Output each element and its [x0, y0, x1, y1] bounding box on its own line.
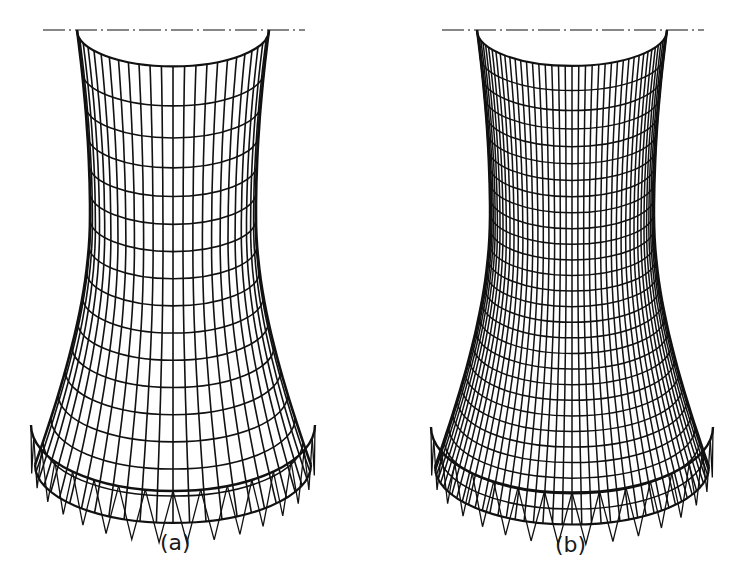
meridian-line — [109, 62, 134, 516]
meridian-line — [562, 66, 566, 525]
panel-label-b: (b) — [555, 532, 586, 557]
meridian-line — [654, 33, 709, 472]
support-column — [626, 481, 650, 536]
support-column — [494, 481, 518, 535]
tower-mesh-fine — [431, 30, 713, 544]
support-column — [518, 488, 544, 541]
meridian-line — [156, 66, 163, 523]
support-column — [600, 488, 626, 542]
meridian-line — [212, 62, 238, 516]
meridian-line — [524, 64, 543, 521]
meridian-line — [578, 66, 582, 525]
cooling-tower-figure — [0, 0, 737, 585]
meridian-line — [247, 47, 296, 492]
panel-label-a: (a) — [160, 530, 191, 555]
meridian-line — [601, 64, 620, 521]
meridian-line — [35, 30, 90, 465]
meridian-line — [51, 47, 100, 492]
tower-mesh-coarse — [31, 30, 315, 543]
ring-line — [77, 30, 269, 66]
meridian-line — [183, 66, 190, 523]
meridian-line — [256, 30, 311, 465]
meridian-line — [435, 33, 490, 472]
